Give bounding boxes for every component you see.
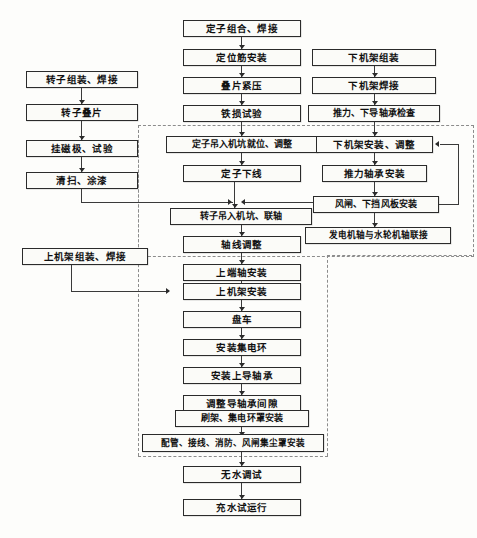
node-brush-holder-slipring-cover[interactable]: 刷架、集电环罩安装 (175, 410, 309, 427)
dashed-group-step-edge (327, 255, 472, 256)
node-lower-frame-weld[interactable]: 下机架焊接 (312, 77, 436, 94)
connector-feedback-into-frameinstall (440, 144, 458, 145)
connector-feedback-up (458, 144, 459, 205)
node-rotor-lamination[interactable]: 转子叠片 (26, 104, 138, 121)
dashed-group-bottom-edge (138, 456, 328, 457)
node-piping-wiring-fire-brake[interactable]: 配管、接线、消防、风闸集尘罩安装 (142, 434, 324, 452)
node-thrust-lower-guide-check[interactable]: 推力、下导轴承检查 (308, 105, 440, 122)
dashed-group-right-edge-lower (327, 255, 328, 456)
arrowhead-upper-frame-install (166, 288, 170, 294)
node-lower-frame-install-adjust[interactable]: 下机架安装、调整 (316, 136, 433, 153)
connector-clean-right-to-merge (81, 202, 233, 203)
node-upper-shaft-install[interactable]: 上端轴安装 (183, 264, 301, 281)
connector-brake-right-feedback (439, 204, 459, 205)
node-lower-frame-assemble[interactable]: 下机架组装 (312, 49, 436, 66)
node-upper-frame-assemble-weld[interactable]: 上机架组装、焊接 (22, 248, 148, 265)
node-thrust-bearing-install[interactable]: 推力轴承安装 (322, 165, 427, 182)
node-stator-winding[interactable]: 定子下线 (183, 165, 301, 182)
node-water-filled-trial[interactable]: 充水试运行 (183, 499, 301, 516)
node-upper-frame-install[interactable]: 上机架安装 (183, 283, 301, 300)
node-dry-commissioning[interactable]: 无水调试 (183, 466, 301, 483)
node-locating-rib-install[interactable]: 定位筋安装 (183, 49, 301, 66)
node-iron-loss-test[interactable]: 铁损试验 (183, 105, 301, 122)
node-rotor-assemble-weld[interactable]: 转子组装、焊接 (26, 71, 138, 88)
node-stator-lift-into-pit[interactable]: 定子吊入机坑就位、调整 (166, 136, 318, 153)
node-barring[interactable]: 盘车 (183, 311, 301, 328)
node-rotor-lift-couple[interactable]: 转子吊入机坑、联轴 (170, 208, 312, 225)
node-lamination-press[interactable]: 叠片紧压 (183, 77, 301, 94)
node-hang-magnet-test[interactable]: 挂磁极、试验 (26, 140, 138, 157)
connector-brake-left-to-merge (243, 202, 313, 203)
arrowhead-lower-frame-feedback (435, 141, 439, 147)
node-brake-lower-baffle-install[interactable]: 风闸、下挡风板安装 (313, 196, 439, 213)
node-generator-turbine-shaft-couple[interactable]: 发电机轴与水轮机轴联接 (305, 227, 451, 244)
flowchart-canvas: 转子组装、焊接 转子叠片 挂磁极、试验 清扫、涂漆 上机架组装、焊接 定子组合、… (0, 0, 477, 538)
node-stator-assemble-weld[interactable]: 定子组合、焊接 (183, 20, 301, 37)
node-clean-paint[interactable]: 清扫、涂漆 (26, 172, 138, 189)
connector-upperframe-down (71, 265, 72, 291)
node-slip-ring-install[interactable]: 安装集电环 (183, 339, 301, 356)
node-shaft-alignment[interactable]: 轴线调整 (183, 236, 301, 253)
node-upper-guide-bearing-install[interactable]: 安装上导轴承 (183, 367, 301, 384)
connector-upperframe-right (71, 291, 169, 292)
connector-clean-down (81, 189, 82, 202)
arrowhead-brake-merge (241, 199, 245, 205)
